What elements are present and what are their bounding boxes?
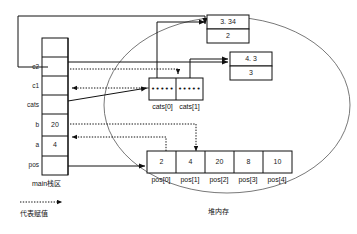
stack-label-c2: c2 — [14, 64, 39, 71]
cat-object-2-field-0: 4. 3 — [230, 55, 272, 62]
legend-caption: 代表赋值 — [20, 210, 48, 217]
stack-label-cats: cats — [8, 102, 39, 109]
cats0-to-object1-line — [157, 22, 205, 78]
cats-cell-0-label: cats[0] — [149, 103, 176, 110]
pos-cell-2-value: 20 — [205, 158, 234, 165]
pos-cell-0-value: 2 — [147, 158, 176, 165]
stack-label-b: b — [14, 122, 39, 129]
cat-object-1-field-1: 2 — [207, 32, 249, 39]
pos-cell-0-label: pos[0] — [145, 176, 177, 183]
pos-cell-4-label: pos[4] — [261, 176, 293, 183]
stack-label-a: a — [14, 142, 39, 149]
main-stack-caption: main栈区 — [32, 180, 61, 187]
c2-reference-line — [18, 16, 205, 67]
cats-cell-1-label: cats[1] — [176, 103, 203, 110]
pos-cell-3-value: 8 — [234, 158, 263, 165]
pos-cell-4-value: 10 — [263, 158, 292, 165]
pos-cell-3-label: pos[3] — [232, 176, 264, 183]
cat-object-1-field-0: 3. 34 — [207, 18, 249, 25]
cats-reference-line — [68, 88, 147, 101]
pos-cell-2-label: pos[2] — [203, 176, 235, 183]
pos-cell-1-value: 4 — [176, 158, 205, 165]
assign-pos1-to-a-dotted — [72, 137, 166, 151]
assign-b-to-pos2-dotted — [70, 124, 196, 151]
stack-value-a: 4 — [42, 141, 68, 148]
cats-cell-1-value: ••••• — [176, 86, 203, 93]
assign-c2-to-cats1-dotted — [70, 69, 178, 74]
stack-frame — [42, 38, 68, 175]
diagram-vector-layer — [0, 0, 357, 234]
cat-object-2-field-1: 3 — [230, 69, 272, 76]
diagram-canvas: c2 c1 cats b a pos 20 4 main栈区 3. 34 2 4… — [0, 0, 357, 234]
heap-caption: 堆内存 — [208, 208, 229, 215]
stack-label-pos: pos — [12, 162, 39, 169]
cats-cell-0-value: ••••• — [149, 86, 176, 93]
pos-cell-1-label: pos[1] — [174, 176, 206, 183]
stack-label-c1: c1 — [14, 83, 39, 90]
stack-value-b: 20 — [42, 121, 68, 128]
